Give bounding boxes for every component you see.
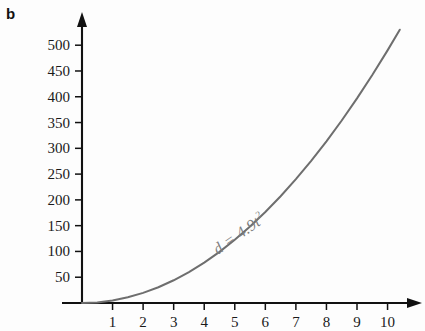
- y-tick-group: 50100150200250300350400450500: [48, 37, 83, 285]
- y-tick-label: 100: [48, 243, 71, 259]
- y-tick-label: 200: [48, 192, 71, 208]
- x-tick-label: 4: [200, 314, 208, 330]
- x-tick-label: 1: [109, 314, 117, 330]
- y-tick-label: 350: [48, 115, 71, 131]
- x-tick-label: 2: [139, 314, 147, 330]
- y-tick-label: 500: [48, 37, 71, 53]
- y-tick-label: 450: [48, 63, 71, 79]
- y-tick-label: 50: [55, 269, 70, 285]
- x-axis-arrowhead: [407, 298, 422, 308]
- x-axis-group: 12345678910: [62, 298, 422, 330]
- y-axis-arrowhead: [77, 12, 87, 27]
- y-tick-label: 250: [48, 166, 71, 182]
- x-tick-label: 5: [231, 314, 239, 330]
- x-tick-label: 3: [170, 314, 178, 330]
- x-tick-label: 10: [380, 314, 395, 330]
- x-tick-label: 6: [262, 314, 270, 330]
- x-tick-label: 7: [292, 314, 300, 330]
- y-tick-label: 400: [48, 89, 71, 105]
- y-axis-group: 50100150200250300350400450500: [48, 12, 88, 303]
- x-tick-label: 9: [353, 314, 361, 330]
- x-tick-label: 8: [323, 314, 331, 330]
- chart-figure: b 50100150200250300350400450500 12345678…: [0, 0, 425, 331]
- y-tick-label: 300: [48, 140, 71, 156]
- data-curve: [82, 30, 400, 303]
- y-tick-label: 150: [48, 218, 71, 234]
- plot-area: 50100150200250300350400450500 1234567891…: [0, 0, 425, 331]
- x-tick-group: 12345678910: [109, 303, 395, 330]
